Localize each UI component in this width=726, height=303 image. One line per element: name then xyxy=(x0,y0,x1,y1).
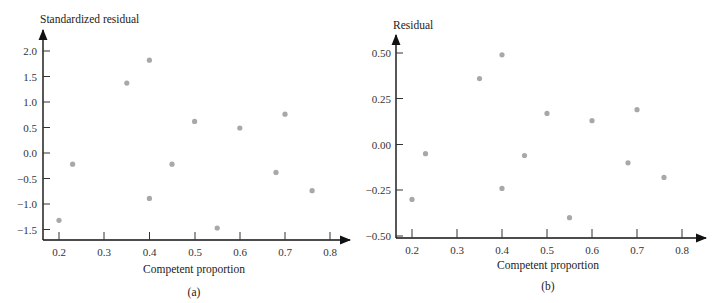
data-point xyxy=(192,119,197,124)
y-tick-label: 2.0 xyxy=(23,45,37,57)
x-ticks-a: 0.2 0.3 0.4 0.5 0.6 0.7 0.8 xyxy=(52,232,337,258)
x-tick-label: 0.7 xyxy=(630,244,644,256)
data-point xyxy=(477,76,482,81)
data-point xyxy=(423,151,428,156)
x-axis-title-b: Competent proportion xyxy=(497,259,599,272)
y-tick-label: −1.0 xyxy=(17,198,37,210)
x-tick-label: 0.7 xyxy=(278,246,292,258)
data-point xyxy=(625,160,630,165)
data-point xyxy=(661,175,666,180)
data-point xyxy=(70,162,75,167)
data-point xyxy=(522,153,527,158)
data-point xyxy=(634,107,639,112)
y-tick-label: 0.50 xyxy=(372,47,392,59)
data-point xyxy=(124,81,129,86)
x-tick-label: 0.3 xyxy=(97,246,111,258)
data-point xyxy=(589,118,594,123)
x-tick-label: 0.5 xyxy=(188,246,202,258)
data-point xyxy=(147,196,152,201)
data-point xyxy=(237,125,242,130)
x-tick-label: 0.4 xyxy=(143,246,157,258)
data-point xyxy=(567,215,572,220)
y-axis-title-a: Standardized residual xyxy=(40,13,139,25)
panel-caption-a: (a) xyxy=(188,286,201,299)
x-tick-label: 0.6 xyxy=(585,244,599,256)
x-tick-label: 0.5 xyxy=(540,244,554,256)
x-tick-label: 0.8 xyxy=(675,244,689,256)
data-point xyxy=(147,58,152,63)
panel-b: Residual 0.50 0.25 0.00 −0.25 −0.50 0.2 … xyxy=(366,19,706,293)
data-point xyxy=(169,162,174,167)
data-point xyxy=(282,112,287,117)
y-tick-label: 0.5 xyxy=(23,122,37,134)
data-point xyxy=(499,52,504,57)
x-tick-label: 0.8 xyxy=(323,246,337,258)
y-tick-label: −0.5 xyxy=(17,173,37,185)
data-point xyxy=(544,111,549,116)
panel-caption-b: (b) xyxy=(541,280,555,293)
y-ticks-b: 0.50 0.25 0.00 −0.25 −0.50 xyxy=(366,47,403,242)
x-tick-label: 0.4 xyxy=(495,244,509,256)
x-ticks-b: 0.2 0.3 0.4 0.5 0.6 0.7 0.8 xyxy=(405,229,689,256)
data-point xyxy=(56,218,61,223)
data-point xyxy=(310,188,315,193)
x-tick-label: 0.2 xyxy=(52,246,66,258)
y-ticks-a: 2.0 1.5 1.0 0.5 0.0 −0.5 −1.0 −1.5 xyxy=(17,45,50,236)
y-tick-label: 1.0 xyxy=(23,96,37,108)
data-points-b xyxy=(409,52,666,220)
data-point xyxy=(409,197,414,202)
y-tick-label: −0.50 xyxy=(366,230,392,242)
figure: Standardized residual 2.0 1.5 1.0 0.5 0.… xyxy=(0,0,726,303)
y-tick-label: −0.25 xyxy=(366,184,392,196)
y-tick-label: 0.0 xyxy=(23,147,37,159)
panel-a: Standardized residual 2.0 1.5 1.0 0.5 0.… xyxy=(17,13,350,299)
x-tick-label: 0.3 xyxy=(450,244,464,256)
y-tick-label: 0.25 xyxy=(372,93,392,105)
x-axis-title-a: Competent proportion xyxy=(143,263,245,276)
y-axis-title-b: Residual xyxy=(393,19,433,31)
x-tick-label: 0.2 xyxy=(405,244,419,256)
data-point xyxy=(215,225,220,230)
y-tick-label: −1.5 xyxy=(17,224,37,236)
x-tick-label: 0.6 xyxy=(233,246,247,258)
y-tick-label: 0.00 xyxy=(372,139,392,151)
data-point xyxy=(273,170,278,175)
y-tick-label: 1.5 xyxy=(23,71,37,83)
data-points-a xyxy=(56,58,314,231)
data-point xyxy=(499,186,504,191)
